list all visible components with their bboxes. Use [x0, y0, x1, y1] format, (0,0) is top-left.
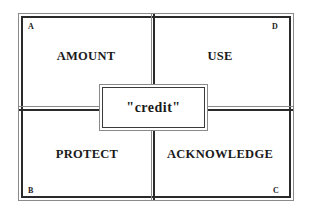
corner-label-a: A [28, 22, 34, 31]
center-box: "credit" [99, 84, 208, 131]
corner-label-d: D [272, 22, 278, 31]
quadrant-label-acknowledge: ACKNOWLEDGE [167, 147, 273, 162]
center-label-credit: "credit" [126, 100, 180, 116]
corner-label-b: B [28, 186, 33, 195]
quadrant-label-protect: PROTECT [56, 147, 119, 162]
corner-label-c: C [273, 186, 279, 195]
quadrant-label-amount: AMOUNT [57, 49, 116, 64]
center-box-inner: "credit" [102, 87, 205, 128]
quadrant-label-use: USE [207, 49, 232, 64]
